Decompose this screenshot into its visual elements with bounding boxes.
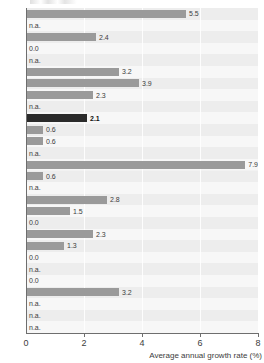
bar-value-label: 7.9: [248, 161, 258, 168]
chart-row: 0.6: [26, 136, 258, 148]
bar-value-label: 2.1: [90, 115, 100, 122]
bar-value-label: 5.5: [189, 10, 199, 17]
bar-na-label: n.a.: [29, 184, 41, 191]
chart-row: 0.0: [26, 43, 258, 55]
bar: [26, 196, 107, 204]
bar: [26, 172, 43, 180]
bar-value-label: 0.6: [46, 138, 56, 145]
bar-zero-label: 0.0: [29, 277, 39, 284]
bar-na-label: n.a.: [29, 150, 41, 157]
bar-na-label: n.a.: [29, 103, 41, 110]
bar: [26, 68, 119, 76]
title-remnant: [30, 0, 90, 4]
bar: [26, 242, 64, 250]
x-tick-mark-6: [200, 333, 201, 337]
bar-na-label: n.a.: [29, 324, 41, 331]
chart-row: 5.5: [26, 8, 258, 20]
chart-row: 2.3: [26, 229, 258, 241]
bar: [26, 91, 93, 99]
bar-na-label: n.a.: [29, 266, 41, 273]
bar-na-label: n.a.: [29, 300, 41, 307]
plot-area: 5.5n.a.2.40.0n.a.3.23.92.3n.a.2.10.60.6n…: [26, 8, 258, 333]
bar-value-label: 3.2: [122, 289, 132, 296]
chart-row: 2.3: [26, 89, 258, 101]
x-axis-title: Average annual growth rate (%): [149, 352, 262, 360]
chart-row: 2.1: [26, 112, 258, 124]
x-tick-label-6: 6: [197, 339, 202, 348]
chart-row: 0.6: [26, 171, 258, 183]
chart-row: n.a.: [26, 321, 258, 333]
x-tick-label-0: 0: [23, 339, 28, 348]
chart-row: n.a.: [26, 182, 258, 194]
chart-row: 0.0: [26, 275, 258, 287]
chart-row: 0.0: [26, 217, 258, 229]
chart-row: 0.0: [26, 252, 258, 264]
chart-row: 3.2: [26, 66, 258, 78]
bar: [26, 10, 186, 18]
bar-value-label: 0.6: [46, 126, 56, 133]
bar-na-label: n.a.: [29, 57, 41, 64]
bar: [26, 207, 70, 215]
chart-row: n.a.: [26, 20, 258, 32]
bar: [26, 230, 93, 238]
bar-na-label: n.a.: [29, 22, 41, 29]
bar-value-label: 3.2: [122, 68, 132, 75]
bar: [26, 126, 43, 134]
chart-row: 7.9: [26, 159, 258, 171]
bar-zero-label: 0.0: [29, 219, 39, 226]
bar-value-label: 1.5: [73, 208, 83, 215]
bar-highlighted: [26, 114, 87, 122]
bar: [26, 161, 245, 169]
bar: [26, 288, 119, 296]
chart-row: n.a.: [26, 310, 258, 322]
chart-row: 1.5: [26, 205, 258, 217]
chart-row: 0.6: [26, 124, 258, 136]
bar: [26, 79, 139, 87]
chart-row: n.a.: [26, 54, 258, 66]
bar-value-label: 1.3: [67, 242, 77, 249]
bar-zero-label: 0.0: [29, 254, 39, 261]
bar: [26, 137, 43, 145]
bar-value-label: 2.8: [110, 196, 120, 203]
bar-value-label: 2.4: [99, 34, 109, 41]
x-tick-mark-8: [258, 333, 259, 337]
chart-row: 2.4: [26, 31, 258, 43]
chart-row: n.a.: [26, 101, 258, 113]
x-tick-label-2: 2: [81, 339, 86, 348]
x-tick-mark-2: [84, 333, 85, 337]
x-tick-label-8: 8: [255, 339, 260, 348]
chart-row: 2.8: [26, 194, 258, 206]
bar-na-label: n.a.: [29, 312, 41, 319]
y-axis-line: [26, 8, 27, 333]
chart-row: n.a.: [26, 263, 258, 275]
bar-value-label: 2.3: [96, 231, 106, 238]
bar-value-label: 2.3: [96, 92, 106, 99]
bar-value-label: 0.6: [46, 173, 56, 180]
chart-row: 3.2: [26, 287, 258, 299]
chart-row: 3.9: [26, 78, 258, 90]
chart-row: 1.3: [26, 240, 258, 252]
chart-row: n.a.: [26, 147, 258, 159]
bar-value-label: 3.9: [142, 80, 152, 87]
chart-row: n.a.: [26, 298, 258, 310]
bar-chart: 5.5n.a.2.40.0n.a.3.23.92.3n.a.2.10.60.6n…: [0, 0, 264, 363]
x-tick-mark-4: [142, 333, 143, 337]
bar-zero-label: 0.0: [29, 45, 39, 52]
x-tick-label-4: 4: [139, 339, 144, 348]
bar: [26, 33, 96, 41]
